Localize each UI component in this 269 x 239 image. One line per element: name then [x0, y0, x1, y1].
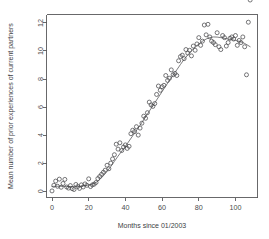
y-tick-label: 6: [36, 105, 45, 109]
x-tick-label: 40: [121, 203, 129, 212]
scatter-plot-figure: 020406080100 024681012 Months since 01/2…: [0, 0, 269, 239]
y-tick-label: 4: [36, 133, 45, 137]
y-axis-title: Mean number of prior experiences of curr…: [7, 23, 15, 189]
x-tick-label: 60: [158, 203, 166, 212]
y-tick-label: 8: [36, 77, 45, 81]
x-tick-label: 20: [85, 203, 93, 212]
x-tick-label: 80: [195, 203, 203, 212]
plot-canvas: 020406080100 024681012 Months since 01/2…: [0, 0, 269, 239]
x-axis-title: Months since 01/2003: [118, 222, 187, 229]
y-tick-label: 0: [36, 189, 45, 193]
y-tick-label: 12: [36, 19, 45, 27]
x-tick-label: 100: [229, 203, 241, 212]
x-tick-label: 0: [50, 203, 54, 212]
y-tick-label: 2: [36, 161, 45, 165]
y-tick-label: 10: [36, 47, 45, 55]
